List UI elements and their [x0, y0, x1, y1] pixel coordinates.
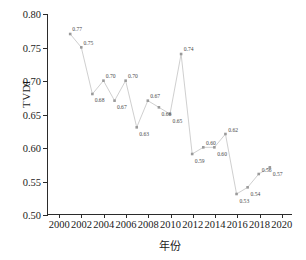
data-point-marker [158, 106, 161, 109]
x-axis-tick-label: 2018 [249, 219, 270, 230]
data-point-marker [102, 79, 105, 82]
series-tvdi [48, 14, 292, 214]
x-axis-tick-label: 2010 [160, 219, 181, 230]
x-axis-tick [193, 214, 194, 218]
data-point-marker [257, 173, 260, 176]
x-axis-tick-label: 2020 [271, 219, 292, 230]
y-axis-tick-label: 0.55 [23, 176, 41, 187]
data-point-marker [202, 146, 205, 149]
data-point-marker [69, 33, 72, 36]
x-axis-tick-label: 2008 [138, 219, 159, 230]
x-axis-tick-label: 2014 [205, 219, 226, 230]
y-axis-tick [43, 215, 48, 216]
x-axis-tick [171, 214, 172, 218]
y-axis-tick-label: 0.60 [23, 143, 41, 154]
data-point-marker [135, 126, 138, 129]
x-axis-tick-label: 2002 [71, 219, 92, 230]
data-point-marker [113, 99, 116, 102]
data-point-marker [224, 133, 227, 136]
data-point-marker [269, 166, 272, 169]
plot-area: 0.500.550.600.650.700.750.80 20002002200… [47, 14, 292, 215]
y-axis-tick-label: 0.50 [23, 210, 41, 221]
x-axis-title: 年份 [47, 237, 292, 253]
data-point-marker [235, 193, 238, 196]
data-point-marker [169, 113, 172, 116]
data-point-marker [180, 53, 183, 56]
x-axis-tick-label: 2016 [227, 219, 248, 230]
x-axis-tick-label: 2000 [49, 219, 70, 230]
x-axis-tick [126, 214, 127, 218]
y-axis-tick-label: 0.65 [23, 109, 41, 120]
data-point-marker [191, 153, 194, 156]
x-axis-tick [104, 214, 105, 218]
x-axis-tick [148, 214, 149, 218]
tvdi-line-chart: TVDI 0.500.550.600.650.700.750.80 200020… [0, 0, 306, 260]
x-axis-tick [237, 214, 238, 218]
x-axis-tick-label: 2006 [115, 219, 136, 230]
y-axis-tick-label: 0.75 [23, 42, 41, 53]
data-point-marker [80, 46, 83, 49]
y-axis-tick-label: 0.80 [23, 9, 41, 20]
x-axis-tick [81, 214, 82, 218]
x-axis-tick-label: 2004 [93, 219, 114, 230]
x-axis-tick [260, 214, 261, 218]
x-axis-tick [282, 214, 283, 218]
data-point-marker [91, 93, 94, 96]
data-point-marker [124, 79, 127, 82]
x-axis-tick [59, 214, 60, 218]
x-axis-tick-label: 2012 [182, 219, 203, 230]
data-point-marker [213, 146, 216, 149]
data-point-marker [147, 99, 150, 102]
data-point-marker [246, 186, 249, 189]
y-axis-tick-label: 0.70 [23, 76, 41, 87]
x-axis-tick [215, 214, 216, 218]
